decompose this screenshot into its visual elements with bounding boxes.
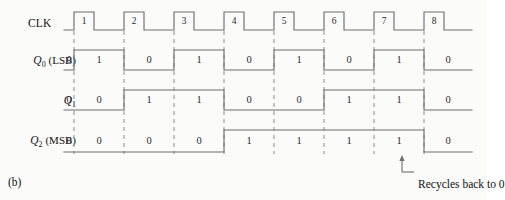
svg-text:0: 0 [96, 94, 101, 105]
svg-text:3: 3 [182, 16, 187, 26]
svg-text:1: 1 [146, 94, 151, 105]
svg-text:1: 1 [196, 94, 201, 105]
svg-text:1: 1 [196, 54, 201, 65]
annotation-leader-layer [399, 155, 414, 172]
svg-text:0: 0 [445, 54, 450, 65]
svg-text:0: 0 [445, 94, 450, 105]
svg-text:1: 1 [82, 16, 87, 26]
svg-text:0: 0 [346, 54, 351, 65]
svg-text:4: 4 [232, 16, 237, 26]
svg-text:2: 2 [132, 16, 137, 26]
svg-text:0: 0 [146, 135, 151, 146]
svg-text:1: 1 [346, 94, 351, 105]
svg-text:1: 1 [96, 54, 101, 65]
svg-text:5: 5 [282, 16, 287, 26]
svg-text:0: 0 [296, 94, 301, 105]
svg-text:1: 1 [346, 135, 351, 146]
svg-text:0: 0 [246, 94, 251, 105]
svg-text:0: 0 [196, 135, 201, 146]
svg-text:1: 1 [396, 94, 401, 105]
svg-text:1: 1 [296, 135, 301, 146]
svg-text:0: 0 [66, 135, 71, 146]
svg-text:1: 1 [396, 135, 401, 146]
svg-text:1: 1 [296, 54, 301, 65]
svg-text:0: 0 [246, 54, 251, 65]
svg-text:0: 0 [96, 135, 101, 146]
svg-text:1: 1 [396, 54, 401, 65]
svg-text:0: 0 [66, 54, 71, 65]
svg-text:0: 0 [66, 94, 71, 105]
svg-text:6: 6 [332, 16, 337, 26]
svg-text:0: 0 [146, 54, 151, 65]
svg-text:7: 7 [382, 16, 387, 26]
svg-text:1: 1 [246, 135, 251, 146]
svg-text:8: 8 [432, 16, 437, 26]
svg-text:0: 0 [445, 135, 450, 146]
waveform-layer: 12345678010101010001100110000011110 [64, 12, 472, 152]
